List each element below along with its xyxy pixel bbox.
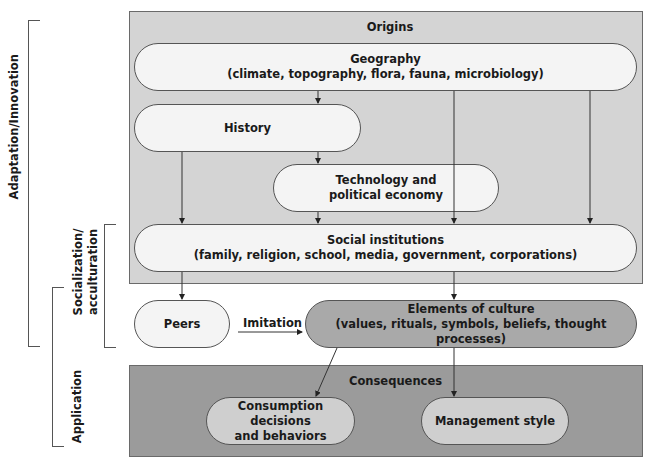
connector-arrows	[0, 0, 656, 468]
